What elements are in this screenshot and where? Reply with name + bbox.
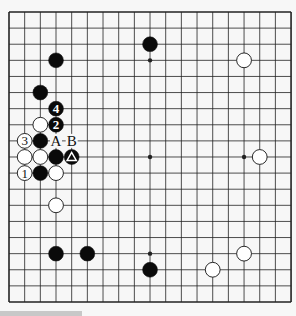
black-stone bbox=[33, 85, 48, 100]
black-stone bbox=[33, 166, 48, 181]
go-board: AB 4231 bbox=[0, 0, 296, 311]
black-stone bbox=[143, 37, 158, 52]
black-stone bbox=[80, 246, 95, 261]
move-number: 2 bbox=[53, 117, 60, 132]
black-stone-4: 4 bbox=[49, 101, 64, 116]
black-stone bbox=[49, 246, 64, 261]
point-label-a: A bbox=[50, 133, 62, 149]
move-number: 1 bbox=[21, 166, 28, 181]
svg-text:A: A bbox=[51, 133, 62, 149]
black-stone bbox=[49, 53, 64, 68]
white-stone bbox=[33, 117, 48, 132]
black-stone bbox=[33, 133, 48, 148]
move-number: 4 bbox=[53, 101, 60, 116]
point-label-b: B bbox=[66, 133, 78, 149]
white-stone-3: 3 bbox=[17, 133, 32, 148]
star-point bbox=[148, 155, 152, 159]
bottom-bar bbox=[0, 311, 82, 316]
white-stone bbox=[49, 198, 64, 213]
star-point bbox=[148, 58, 152, 62]
black-stone-2: 2 bbox=[49, 117, 64, 132]
white-stone bbox=[237, 246, 252, 261]
white-stone bbox=[49, 166, 64, 181]
black-stone bbox=[143, 262, 158, 277]
white-stone bbox=[237, 53, 252, 68]
black-stone-triangle bbox=[64, 150, 79, 165]
white-stone-1: 1 bbox=[17, 166, 32, 181]
white-stone bbox=[33, 150, 48, 165]
star-point bbox=[148, 251, 152, 255]
white-stone bbox=[205, 262, 220, 277]
white-stone bbox=[252, 150, 267, 165]
svg-text:B: B bbox=[67, 133, 77, 149]
black-stone bbox=[49, 150, 64, 165]
star-point bbox=[242, 155, 246, 159]
white-stone bbox=[17, 150, 32, 165]
go-board-diagram: AB 4231 bbox=[0, 0, 296, 311]
move-number: 3 bbox=[21, 133, 28, 148]
